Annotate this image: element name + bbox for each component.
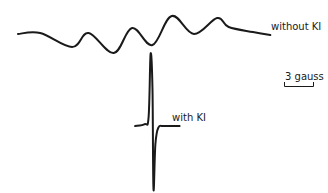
series-label-without-ki: without KI bbox=[271, 21, 321, 32]
scale-bar bbox=[285, 82, 314, 87]
trace-without-ki bbox=[18, 16, 270, 53]
chart-canvas: without KI with KI 3 gauss bbox=[0, 0, 328, 193]
scale-bar-label: 3 gauss bbox=[285, 71, 324, 82]
series-label-with-ki: with KI bbox=[172, 112, 206, 123]
epr-spectrum-figure: without KI with KI 3 gauss bbox=[0, 0, 328, 193]
